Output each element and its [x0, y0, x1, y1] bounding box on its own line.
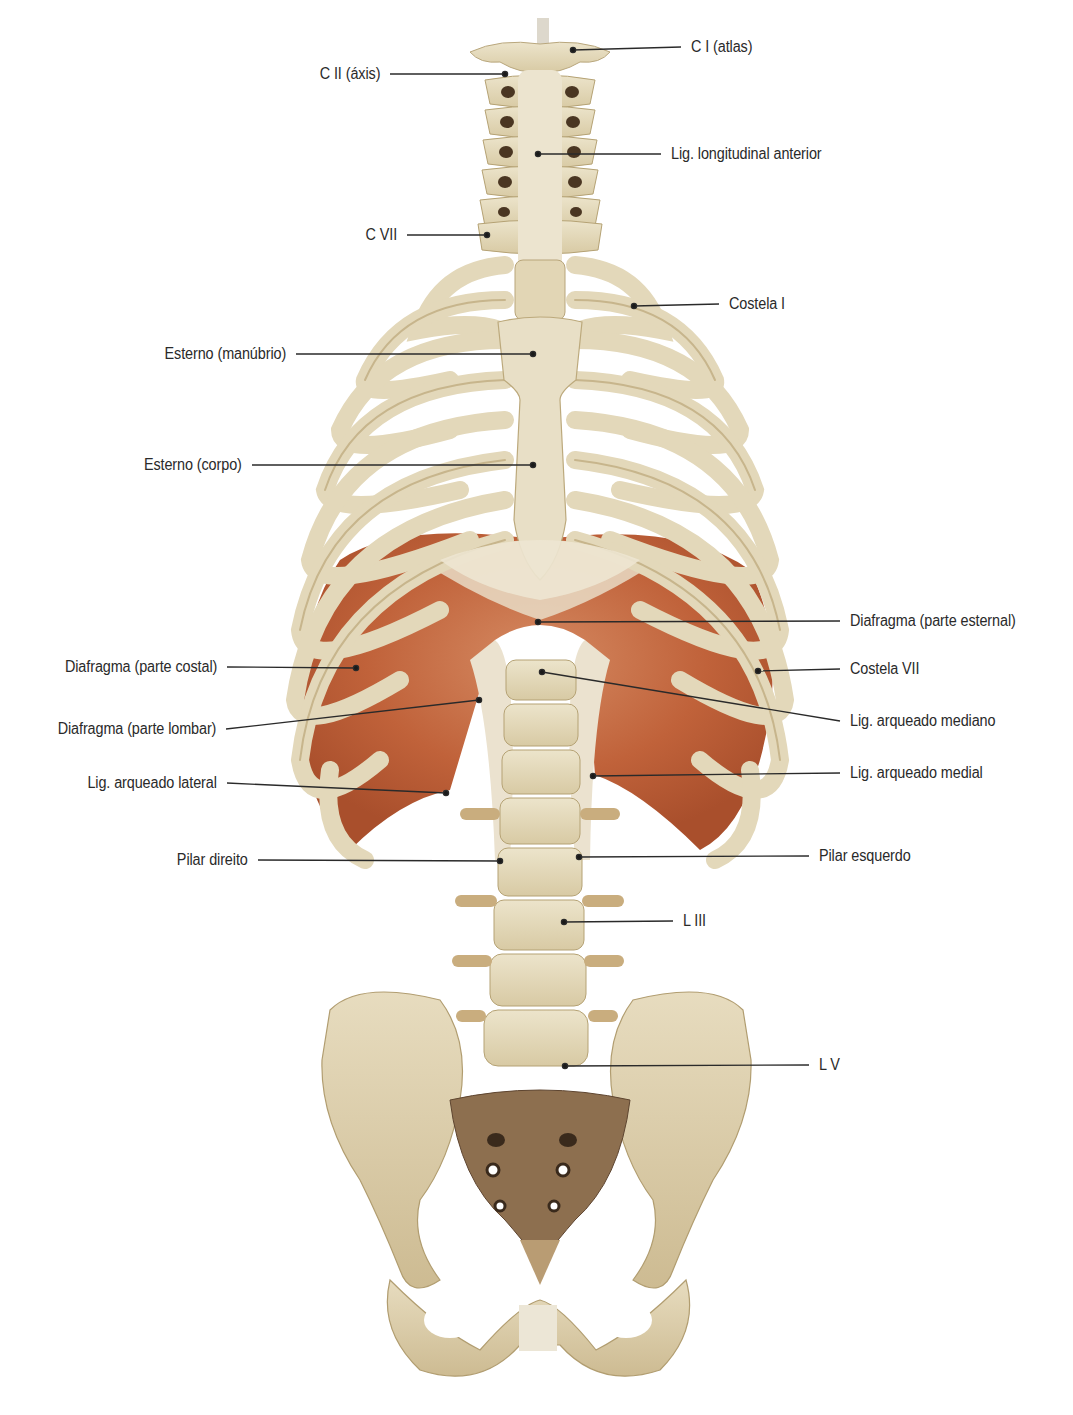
leader-dot-ant_long_lig	[535, 151, 540, 156]
leader-dot-diaph_sternal	[535, 619, 540, 624]
label-c7: C VII	[365, 225, 397, 245]
leader-dot-l3	[561, 919, 566, 924]
label-pilar-direito: Pilar direito	[177, 850, 248, 870]
leader-dot-c2	[502, 71, 507, 76]
leader-line-l5	[565, 1065, 809, 1066]
leader-dot-rib1	[631, 303, 636, 308]
label-diafragma-parte-lombar: Diafragma (parte lombar)	[57, 719, 216, 739]
leader-dot-median_arcuate	[539, 669, 544, 674]
leader-dot-diaph_costal	[353, 665, 358, 670]
label-diafragma-parte-costal: Diafragma (parte costal)	[65, 657, 217, 677]
label-esterno-corpo: Esterno (corpo)	[144, 455, 242, 475]
label-c1-atlas: C I (atlas)	[691, 37, 752, 57]
leader-dot-medial_arcuate	[590, 773, 595, 778]
leader-line-left_crus	[579, 856, 809, 857]
skeleton-illustration	[0, 0, 1073, 1415]
leader-dot-right_crus	[497, 858, 502, 863]
leader-line-right_crus	[258, 860, 500, 861]
leader-dot-rib7	[755, 668, 760, 673]
label-lig-arqueado-medial: Lig. arqueado medial	[850, 763, 983, 783]
leader-dot-lat_arcuate	[443, 790, 448, 795]
label-esterno-manubrio: Esterno (manúbrio)	[164, 344, 286, 364]
leader-dot-left_crus	[576, 854, 581, 859]
label-lig-arqueado-lateral: Lig. arqueado lateral	[88, 773, 217, 793]
label-pilar-esquerdo: Pilar esquerdo	[819, 846, 911, 866]
leader-dot-l5	[562, 1063, 567, 1068]
leader-dot-diaph_lumbar	[476, 697, 481, 702]
label-lig-arqueado-mediano: Lig. arqueado mediano	[850, 711, 995, 731]
label-c2: C II (áxis)	[319, 64, 380, 84]
leader-dot-manubrium	[530, 351, 535, 356]
leader-dot-sternum_body	[530, 462, 535, 467]
label-costela-i: Costela I	[729, 294, 785, 314]
label-l5: L V	[819, 1055, 840, 1075]
label-costela-vii: Costela VII	[850, 659, 919, 679]
label-diafragma-parte-esternal: Diafragma (parte esternal)	[850, 611, 1016, 631]
leader-dot-c1	[570, 47, 575, 52]
label-lig-longitudinal-anterior: Lig. longitudinal anterior	[671, 144, 822, 164]
anatomy-figure: C II (áxis) C VII Esterno (manúbrio) Est…	[0, 0, 1073, 1415]
leader-dot-c7	[484, 232, 489, 237]
label-l3: L III	[683, 911, 706, 931]
